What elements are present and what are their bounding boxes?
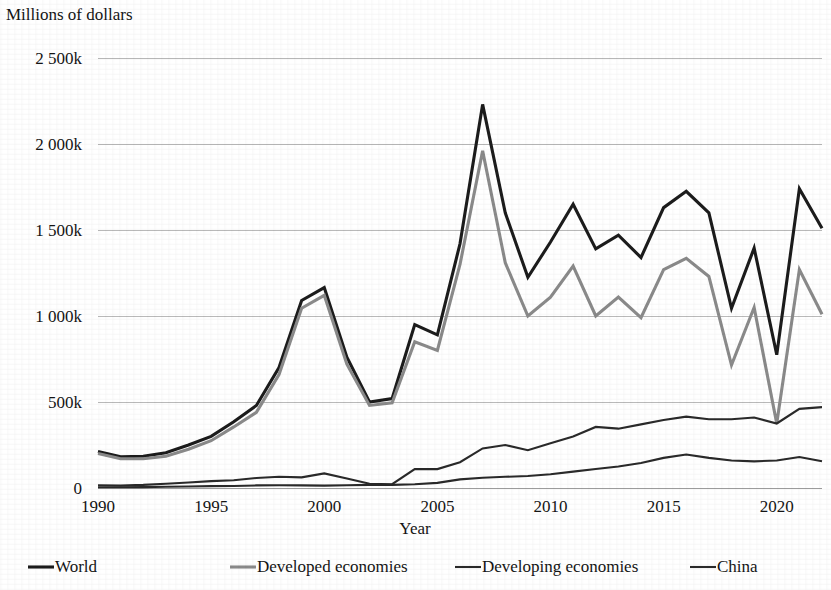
x-tick-label: 1995 [194,497,228,516]
y-tick-label: 2 000k [35,135,82,154]
legend-label-china: China [717,557,758,576]
legend-label-developing-economies: Developing economies [482,557,638,576]
legend-label-world: World [55,557,98,576]
x-tick-label: 2015 [647,497,681,516]
y-tick-label: 1 000k [35,307,82,326]
chart-background [0,0,831,590]
x-axis-title: Year [399,519,431,538]
x-tick-label: 2020 [760,497,794,516]
x-tick-label: 2010 [534,497,568,516]
y-axis-title: Millions of dollars [6,5,133,24]
y-tick-label: 2 500k [35,49,82,68]
chart-container: Millions of dollars 0500k1 000k1 500k2 0… [0,0,831,590]
y-tick-label: 1 500k [35,221,82,240]
y-tick-label: 500k [48,393,83,412]
x-tick-label: 1990 [81,497,115,516]
x-tick-label: 2005 [420,497,454,516]
x-tick-label: 2000 [307,497,341,516]
fdi-line-chart: Millions of dollars 0500k1 000k1 500k2 0… [0,0,831,590]
y-tick-label: 0 [74,479,83,498]
legend-label-developed-economies: Developed economies [257,557,408,576]
